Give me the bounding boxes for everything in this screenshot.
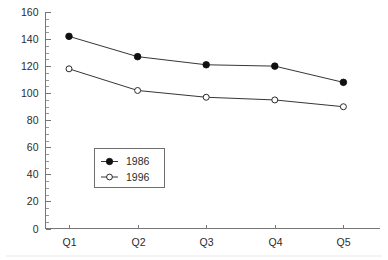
x-axis-tick-label: Q3	[199, 236, 213, 248]
y-axis-tick-label: 160	[21, 6, 39, 18]
y-axis-tick-labels: 020406080100120140160	[21, 6, 39, 235]
series-markers-group	[66, 33, 347, 110]
x-axis-tick-label: Q2	[131, 236, 145, 248]
chart-legend: 19861996	[95, 149, 165, 188]
data-point-1996-Q3	[203, 94, 209, 100]
data-point-1986-Q1	[66, 33, 73, 40]
legend-label-1986: 1986	[126, 155, 150, 167]
data-point-1986-Q5	[340, 79, 347, 86]
series-line-1996	[69, 69, 343, 107]
legend-marker-1996	[107, 174, 113, 180]
chart-container: 020406080100120140160 Q1Q2Q3Q4Q5 1986199…	[0, 0, 388, 260]
y-axis-tick-label: 80	[27, 114, 39, 126]
legend-marker-1986	[106, 158, 112, 164]
x-axis-tick-label: Q5	[336, 236, 350, 248]
data-point-1996-Q5	[340, 104, 346, 110]
data-point-1986-Q2	[134, 53, 141, 60]
data-point-1996-Q4	[272, 97, 278, 103]
y-axis-tick-label: 60	[27, 141, 39, 153]
y-axis-tick-label: 100	[21, 87, 39, 99]
x-axis-ticks	[70, 225, 344, 229]
data-point-1986-Q3	[203, 61, 210, 68]
line-chart: 020406080100120140160 Q1Q2Q3Q4Q5 1986199…	[0, 0, 388, 260]
y-axis-tick-label: 120	[21, 60, 39, 72]
legend-label-1996: 1996	[126, 171, 150, 183]
data-point-1996-Q1	[66, 66, 72, 72]
series-line-1986	[69, 36, 343, 82]
y-axis-tick-label: 140	[21, 33, 39, 45]
y-axis-tick-label: 0	[33, 223, 39, 235]
data-point-1996-Q2	[135, 87, 141, 93]
x-axis-tick-label: Q4	[268, 236, 282, 248]
data-point-1986-Q4	[272, 63, 279, 70]
y-axis-major-ticks	[46, 13, 51, 230]
x-axis-tick-label: Q1	[62, 236, 76, 248]
x-axis-tick-labels: Q1Q2Q3Q4Q5	[62, 236, 350, 248]
y-axis-tick-label: 20	[27, 195, 39, 207]
y-axis-tick-label: 40	[27, 168, 39, 180]
